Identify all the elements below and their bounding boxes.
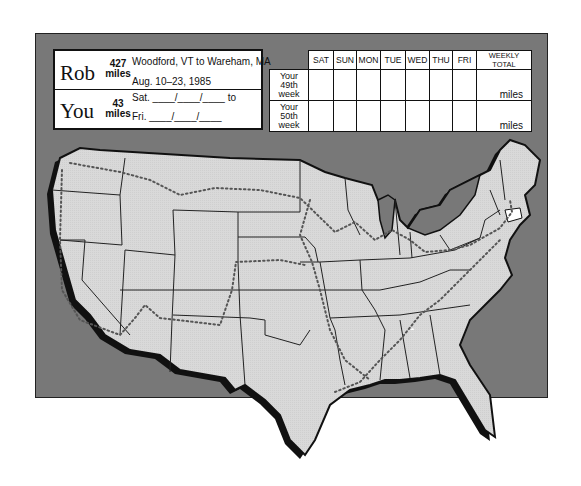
rob-miles-unit: miles <box>103 69 133 79</box>
you-miles-value: 43 <box>103 99 133 109</box>
week-50-total-cell[interactable]: miles <box>477 101 532 132</box>
rob-vs-you-box: Rob 427 miles Woodford, VT to Wareham, M… <box>53 49 263 130</box>
week-50-thu-cell[interactable] <box>430 101 453 132</box>
weekly-log-table: SAT SUN MON TUE WED THU FRI WEEKLY TOTAL… <box>269 50 532 132</box>
week-50-sat-cell[interactable] <box>309 101 334 132</box>
week-49-row: Your49thweek miles <box>270 70 532 101</box>
col-tue: TUE <box>381 51 406 70</box>
col-fri: FRI <box>453 51 477 70</box>
week-49-fri-cell[interactable] <box>453 70 477 101</box>
you-end-date-blank[interactable]: Fri. ____/____/____ <box>132 111 222 122</box>
week-49-sat-cell[interactable] <box>309 70 334 101</box>
rob-miles: 427 miles <box>103 59 133 79</box>
col-thu: THU <box>430 51 453 70</box>
week-49-mon-cell[interactable] <box>357 70 381 101</box>
you-row: You 43 miles Sat. ____/____/____ to Fri.… <box>55 90 261 129</box>
col-sat: SAT <box>309 51 334 70</box>
you-miles: 43 miles <box>103 99 133 119</box>
corner-cell <box>270 51 309 70</box>
week-49-sun-cell[interactable] <box>334 70 357 101</box>
week-49-total-cell[interactable]: miles <box>477 70 532 101</box>
rob-dates: Aug. 10–23, 1985 <box>132 76 211 87</box>
week-50-fri-cell[interactable] <box>453 101 477 132</box>
col-wed: WED <box>406 51 430 70</box>
col-weekly-total: WEEKLY TOTAL <box>477 51 532 70</box>
rob-name: Rob <box>60 61 95 86</box>
week-49-wed-cell[interactable] <box>406 70 430 101</box>
rob-route: Woodford, VT to Wareham, MA <box>132 56 271 67</box>
week-50-tue-cell[interactable] <box>381 101 406 132</box>
week-49-tue-cell[interactable] <box>381 70 406 101</box>
week-49-thu-cell[interactable] <box>430 70 453 101</box>
you-miles-unit: miles <box>103 109 133 119</box>
week-50-label: Your50thweek <box>270 101 309 132</box>
you-name: You <box>60 99 94 124</box>
you-start-date-blank[interactable]: Sat. ____/____/____ to <box>132 92 236 103</box>
col-mon: MON <box>357 51 381 70</box>
col-sun: SUN <box>334 51 357 70</box>
week-50-row: Your50thweek miles <box>270 101 532 132</box>
rob-row: Rob 427 miles Woodford, VT to Wareham, M… <box>55 51 261 90</box>
week-50-mon-cell[interactable] <box>357 101 381 132</box>
header-row: SAT SUN MON TUE WED THU FRI WEEKLY TOTAL <box>270 51 532 70</box>
week-50-sun-cell[interactable] <box>334 101 357 132</box>
week-50-wed-cell[interactable] <box>406 101 430 132</box>
week-49-label: Your49thweek <box>270 70 309 101</box>
